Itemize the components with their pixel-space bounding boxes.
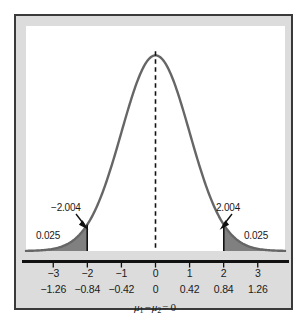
right-callout-arrow-head	[222, 222, 229, 229]
t-tick-label-3: 0	[153, 267, 159, 279]
left-callout-arrow-head	[80, 222, 87, 229]
mu-tick-label-4: 0.42	[180, 283, 200, 295]
t-tick-label-2: −1	[116, 267, 128, 279]
t-tick-label-4: 1	[187, 267, 193, 279]
left-critical-value-label: −2.004	[51, 202, 81, 213]
t-tick-label-5: 2	[221, 267, 227, 279]
t-tick-label-6: 3	[255, 267, 261, 279]
equals-operator: =	[161, 301, 169, 313]
mu-tick-label-5: 0.84	[214, 283, 234, 295]
mu-tick-label-1: −0.84	[75, 283, 101, 295]
right-critical-value-label: 2.004	[216, 202, 240, 213]
mu1-subscript: 1	[140, 306, 144, 315]
minus-operator: −	[144, 301, 152, 313]
mu-tick-label-3: 0	[153, 283, 159, 295]
right-tail-area-label: 0.025	[244, 230, 268, 241]
mu-tick-label-6: 1.26	[248, 283, 268, 295]
hypothesis-value: 0	[170, 301, 178, 313]
mu-tick-label-2: −0.42	[109, 283, 135, 295]
t-tick-label-1: −2	[82, 267, 94, 279]
t-tick-label-0: −3	[47, 267, 59, 279]
figure-frame: −2.004 2.004 0.025 0.025 −3−2−10123 −1.2…	[14, 14, 293, 310]
hypothesis-label: μ1−μ2=0	[16, 301, 295, 315]
left-tail-area-label: 0.025	[36, 230, 60, 241]
mu-tick-label-0: −1.26	[40, 283, 66, 295]
mean-difference-tick-labels: −1.26−0.84−0.4200.420.841.26	[16, 283, 295, 297]
t-scale-tick-labels: −3−2−10123	[16, 267, 295, 281]
